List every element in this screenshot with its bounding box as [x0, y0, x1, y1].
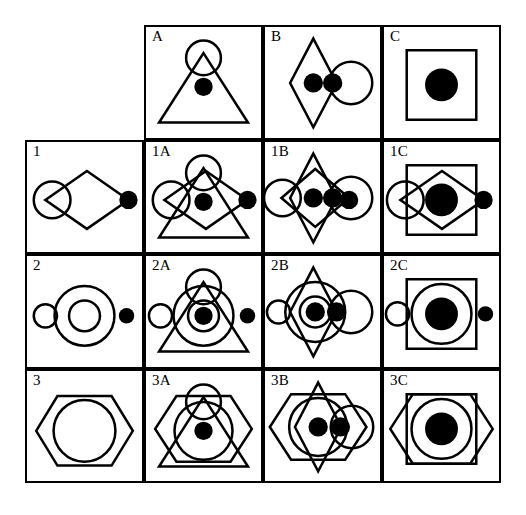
matrix-cell-3: 3 [25, 369, 144, 484]
right-circle-left-dot-filled [323, 188, 342, 207]
matrix-cell-2A: 2A [144, 254, 263, 369]
right-circle-left-dot-filled [323, 73, 342, 92]
center-dot-filled [425, 68, 458, 101]
diamond-center-dot-filled [304, 73, 323, 92]
matrix-cell-3B: 3B [263, 369, 382, 484]
cell-label-1: 1 [33, 143, 41, 160]
left-circle-outline [34, 181, 71, 218]
diamond-center-dot-filled [308, 417, 327, 436]
right-circle-left-dot-filled [331, 417, 350, 436]
center-dot-filled [194, 421, 212, 439]
cell-label-B: B [271, 28, 281, 45]
right-vertex-dot-filled [474, 190, 492, 208]
cell-glyph-3 [27, 371, 142, 482]
matrix-cell-3C: 3C [382, 369, 501, 484]
matrix-cell-C: C [382, 25, 501, 140]
diamond-center-dot-filled [304, 188, 323, 207]
right-circle-left-dot-filled [327, 302, 346, 321]
matrix-cell-A: A [144, 25, 263, 140]
center-dot-filled [194, 192, 212, 210]
cell-label-2C: 2C [390, 257, 408, 274]
hexagon-outline [36, 396, 133, 465]
matrix-cell-2: 2 [25, 254, 144, 369]
cell-label-3C: 3C [390, 372, 408, 389]
center-dot-filled [194, 78, 212, 96]
wide-diamond-outline [45, 170, 128, 228]
right-dot-filled [478, 306, 493, 321]
matrix-cell-1C: 1C [382, 140, 501, 255]
diamond-center-dot-filled [306, 302, 325, 321]
right-dot-filled [119, 308, 134, 323]
center-dot-filled [194, 307, 212, 325]
cell-label-A: A [152, 28, 163, 45]
cell-glyph-C [384, 27, 499, 138]
cell-label-C: C [390, 28, 400, 45]
matrix-cell-B: B [263, 25, 382, 140]
cell-label-3A: 3A [152, 372, 171, 389]
right-vertex-dot-filled [119, 190, 137, 208]
left-circle-outline [387, 181, 424, 218]
cell-label-3B: 3B [271, 372, 289, 389]
cell-label-1A: 1A [152, 143, 171, 160]
matrix-grid: ABC11A1B1C22A2B2C33A3B3C [25, 25, 501, 483]
cell-label-2B: 2B [271, 257, 289, 274]
small-left-circle-outline [149, 304, 172, 327]
cell-label-3: 3 [33, 372, 41, 389]
right-vertex-dot-filled [238, 190, 256, 208]
inner-circle-outline [69, 300, 100, 331]
matrix-cell-corner-empty [25, 25, 144, 140]
right-dot-filled [240, 308, 255, 323]
center-dot-filled [425, 412, 458, 445]
cell-label-1C: 1C [390, 143, 408, 160]
center-dot-filled [425, 297, 458, 330]
shape-combination-figure: ABC11A1B1C22A2B2C33A3B3C [0, 0, 526, 515]
matrix-cell-3A: 3A [144, 369, 263, 484]
matrix-cell-1A: 1A [144, 140, 263, 255]
matrix-cell-2B: 2B [263, 254, 382, 369]
cell-glyph-B [265, 27, 380, 138]
cell-glyph-A [146, 27, 261, 138]
matrix-cell-1: 1 [25, 140, 144, 255]
cell-glyph-1 [27, 142, 142, 253]
inner-circle-outline [54, 399, 116, 461]
cell-label-2: 2 [33, 257, 41, 274]
cell-label-1B: 1B [271, 143, 289, 160]
apex-circle-outline [186, 41, 221, 76]
right-vertex-dot-filled [340, 190, 358, 208]
cell-glyph-2 [27, 256, 142, 367]
matrix-cell-1B: 1B [263, 140, 382, 255]
cell-label-2A: 2A [152, 257, 171, 274]
big-circle-outline [55, 286, 115, 346]
matrix-cell-2C: 2C [382, 254, 501, 369]
center-dot-filled [425, 183, 458, 216]
